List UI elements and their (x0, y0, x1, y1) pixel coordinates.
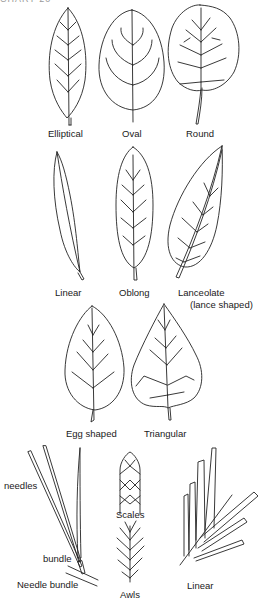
label-linear: Linear (55, 287, 81, 298)
lanceolate-leaf-icon (168, 146, 222, 278)
label-elliptical: Elliptical (48, 128, 83, 139)
label-needle-bundle: Needle bundle (17, 579, 78, 590)
linear-conifer-icon (180, 448, 258, 565)
egg-shaped-leaf-icon (65, 306, 124, 422)
awls-icon (117, 521, 144, 582)
label-egg-shaped: Egg shaped (66, 428, 117, 439)
label-lanceolate-sub: (lance shaped) (190, 299, 253, 310)
triangular-leaf-icon (131, 304, 201, 420)
callout-needles: needles (4, 480, 37, 491)
label-round: Round (186, 128, 214, 139)
label-oblong: Oblong (119, 287, 150, 298)
label-scales: Scales (116, 509, 145, 520)
scales-icon (120, 452, 140, 514)
label-triangular: Triangular (144, 428, 186, 439)
label-oval: Oval (122, 128, 142, 139)
elliptical-leaf-icon (49, 8, 86, 125)
label-awls: Awls (120, 589, 140, 600)
label-conifer-linear: Linear (187, 580, 213, 591)
round-leaf-icon (168, 5, 239, 124)
callout-bundle: bundle (43, 553, 72, 564)
needle-bundle-icon (28, 446, 98, 586)
linear-leaf-icon (54, 152, 84, 280)
oblong-leaf-icon (116, 147, 153, 280)
label-lanceolate: Lanceolate (178, 287, 224, 298)
oval-leaf-icon (99, 10, 164, 122)
